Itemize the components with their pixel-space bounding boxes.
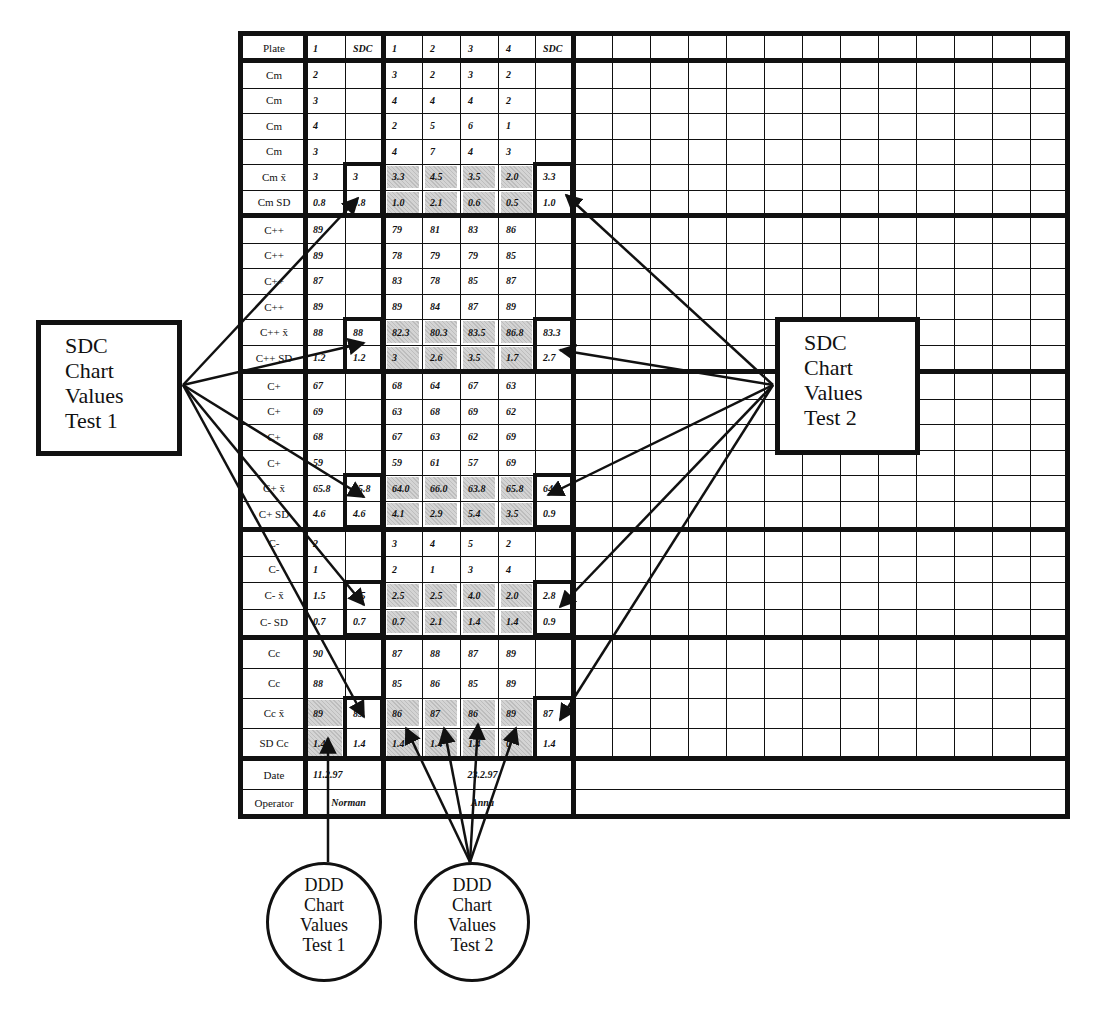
callout-line: Test 1 (65, 408, 177, 433)
row-label: Cm SD (243, 190, 305, 216)
test2-value: 1 (498, 113, 535, 139)
test1-sdc-value (345, 139, 384, 165)
test2-value: 86 (422, 668, 460, 698)
test1-value: 89 (305, 217, 345, 243)
test1-value: 89 (305, 243, 345, 269)
test2-sdc-value (535, 638, 573, 668)
plate-col: SDC (535, 36, 573, 60)
test1-sdc-value (345, 450, 384, 476)
test2-value: 87 (460, 638, 498, 668)
test1-value: 1.4 (305, 728, 345, 758)
test2-value: 86 (498, 217, 535, 243)
sdc-value-box (533, 317, 574, 372)
test2-value: 67 (460, 373, 498, 399)
test2-value: 3.3 (384, 164, 422, 190)
test2-value: 3 (498, 139, 535, 165)
test2-value: 3 (384, 62, 422, 88)
row-label: Cm x̄ (243, 164, 305, 190)
test2-value: 69 (498, 450, 535, 476)
test1-value: 1.2 (305, 345, 345, 371)
grid-col (992, 31, 993, 756)
sdc-value-box (533, 162, 574, 217)
col-divider (460, 31, 461, 756)
row-label: Cm (243, 113, 305, 139)
test2-sdc-value (535, 268, 573, 294)
test2-value: 4 (422, 88, 460, 114)
callout-line: SDC (65, 333, 177, 358)
operator-test1: Norman (305, 789, 384, 816)
col-divider (422, 31, 423, 756)
test2-sdc-value (535, 424, 573, 450)
test2-value: 79 (460, 243, 498, 269)
row-label: SD Cc (243, 728, 305, 758)
test2-value: 3.5 (498, 501, 535, 527)
test2-value: 89 (498, 668, 535, 698)
test2-value: 0 (498, 728, 535, 758)
test1-value: 65.8 (305, 475, 345, 501)
test2-value: 4 (384, 139, 422, 165)
row-label: C++ (243, 268, 305, 294)
date-test1: 11.2.97 (305, 760, 384, 789)
test2-value: 62 (498, 399, 535, 425)
test1-value: 0.7 (305, 609, 345, 635)
group-divider (238, 58, 1070, 63)
test2-value: 62 (460, 424, 498, 450)
test1-sdc-value (345, 88, 384, 114)
test2-value: 3 (460, 62, 498, 88)
callout-line: Values (417, 915, 527, 935)
callout-sdc-test2: SDC Chart Values Test 2 (775, 317, 920, 455)
test1-sdc-value (345, 62, 384, 88)
row-label: C+ (243, 424, 305, 450)
test2-value: 4.1 (384, 501, 422, 527)
test2-value: 89 (498, 638, 535, 668)
test2-value: 1.0 (384, 190, 422, 216)
test2-value: 3 (460, 556, 498, 582)
test2-value: 2.6 (422, 345, 460, 371)
plate-col: 4 (498, 36, 535, 60)
row-label: C+ (243, 373, 305, 399)
test1-sdc-value (345, 530, 384, 556)
test2-value: 81 (422, 217, 460, 243)
test1-sdc-value (345, 268, 384, 294)
test2-value: 3.5 (460, 164, 498, 190)
test1-value: 2 (305, 62, 345, 88)
test2-value: 88 (422, 638, 460, 668)
row-label: Cc (243, 638, 305, 668)
test2-value: 64.0 (384, 475, 422, 501)
callout-line: Values (269, 915, 379, 935)
test2-sdc-value (535, 373, 573, 399)
row-label: C+ SD (243, 501, 305, 527)
plate-col: 3 (460, 36, 498, 60)
row-label: C- SD (243, 609, 305, 635)
test2-value: 1.4 (384, 728, 422, 758)
test2-value: 4 (460, 88, 498, 114)
sdc-value-box (343, 162, 384, 217)
test2-sdc-value (535, 243, 573, 269)
test2-sdc-value (535, 668, 573, 698)
test1-value: 88 (305, 319, 345, 345)
test2-value: 2.0 (498, 164, 535, 190)
sdc-value-box (533, 473, 574, 528)
test2-sdc-value (535, 217, 573, 243)
test2-value: 85 (498, 243, 535, 269)
test2-value: 1 (422, 556, 460, 582)
test2-value: 87 (460, 294, 498, 320)
test1-sdc-value (345, 638, 384, 668)
sdc-value-box (343, 317, 384, 372)
sdc-value-box (533, 580, 574, 636)
test2-value: 69 (498, 424, 535, 450)
row-label: Cm (243, 139, 305, 165)
grid-col (688, 31, 689, 756)
row-label: C++ (243, 243, 305, 269)
test1-value: 0.8 (305, 190, 345, 216)
test2-value: 83 (460, 217, 498, 243)
test2-value: 63.8 (460, 475, 498, 501)
test2-value: 83 (384, 268, 422, 294)
test2-value: 69 (460, 399, 498, 425)
test2-value: 78 (384, 243, 422, 269)
plate-col: 2 (422, 36, 460, 60)
test1-value: 89 (305, 698, 345, 728)
test1-value: 67 (305, 373, 345, 399)
test2-value: 0.7 (384, 609, 422, 635)
test2-value: 82.3 (384, 319, 422, 345)
